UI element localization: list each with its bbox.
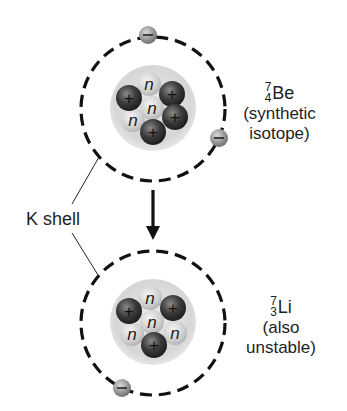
- lithium-note-line1: (also: [236, 318, 326, 338]
- k-shell-label: K shell: [26, 209, 80, 229]
- svg-text:n: n: [170, 324, 179, 343]
- electron-icon: [139, 26, 157, 44]
- svg-text:+: +: [124, 89, 134, 108]
- proton-icon: +: [141, 332, 167, 358]
- proton-icon: +: [162, 104, 188, 130]
- neutron-icon: n: [120, 322, 144, 346]
- beryllium-note-line1: (synthetic: [232, 104, 327, 124]
- svg-text:n: n: [127, 325, 136, 344]
- svg-text:n: n: [145, 289, 154, 308]
- beryllium-isotope-notation: 7 4 Be: [265, 82, 295, 104]
- svg-text:+: +: [124, 302, 134, 321]
- lithium-note-line2: unstable): [236, 338, 326, 358]
- svg-text:n: n: [144, 75, 153, 94]
- proton-icon: +: [116, 298, 142, 324]
- svg-text:+: +: [168, 299, 178, 318]
- svg-text:n: n: [147, 99, 156, 118]
- lithium-label: 7 3 Li (also unstable): [236, 290, 326, 358]
- element-symbol: Be: [272, 83, 294, 103]
- neutron-icon: n: [163, 321, 187, 345]
- proton-icon: +: [116, 85, 142, 111]
- electron-icon: [210, 129, 228, 147]
- beryllium-label: 7 4 Be (synthetic isotope): [232, 76, 327, 144]
- beryllium-atom: n n n + + + +: [81, 26, 228, 181]
- svg-text:+: +: [149, 336, 159, 355]
- neutron-icon: n: [138, 286, 162, 310]
- atomic-number: 4: [265, 93, 272, 104]
- svg-text:+: +: [167, 85, 177, 104]
- beryllium-note-line2: isotope): [232, 124, 327, 144]
- proton-icon: +: [140, 119, 166, 145]
- proton-icon: +: [159, 81, 185, 107]
- svg-text:+: +: [170, 108, 180, 127]
- svg-text:+: +: [148, 123, 158, 142]
- lithium-isotope-notation: 7 3 Li: [270, 296, 292, 318]
- proton-icon: +: [160, 295, 186, 321]
- lithium-atom: n n n n + + +: [81, 251, 225, 397]
- k-shell-pointer-upper: [72, 157, 99, 204]
- svg-text:n: n: [128, 111, 137, 130]
- down-arrow-icon: [146, 190, 160, 240]
- element-symbol: Li: [278, 297, 292, 317]
- neutron-icon: n: [140, 310, 164, 334]
- k-shell-pointer-lower: [72, 233, 98, 275]
- electron-icon: [113, 379, 131, 397]
- svg-text:n: n: [147, 313, 156, 332]
- atomic-number: 3: [270, 307, 277, 318]
